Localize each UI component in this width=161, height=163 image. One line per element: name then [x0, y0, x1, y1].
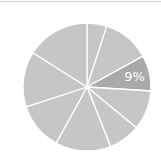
- pie-slices: [23, 23, 151, 151]
- pie-chart: 9%: [0, 0, 161, 163]
- slice-label: 9%: [124, 69, 145, 84]
- pie-labels: 9%: [124, 69, 145, 84]
- pie-chart-svg: 9%: [0, 0, 161, 163]
